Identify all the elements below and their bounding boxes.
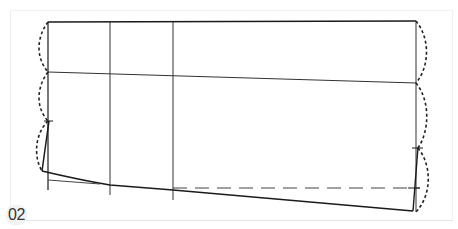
pattern-diagram xyxy=(0,0,458,229)
middle-line xyxy=(48,72,416,83)
figure-label: 02 xyxy=(6,205,27,225)
top-line xyxy=(48,21,416,22)
right-dashed-arcs xyxy=(416,21,428,212)
hem-curve xyxy=(42,171,413,211)
left-dashed-arcs xyxy=(37,22,48,171)
